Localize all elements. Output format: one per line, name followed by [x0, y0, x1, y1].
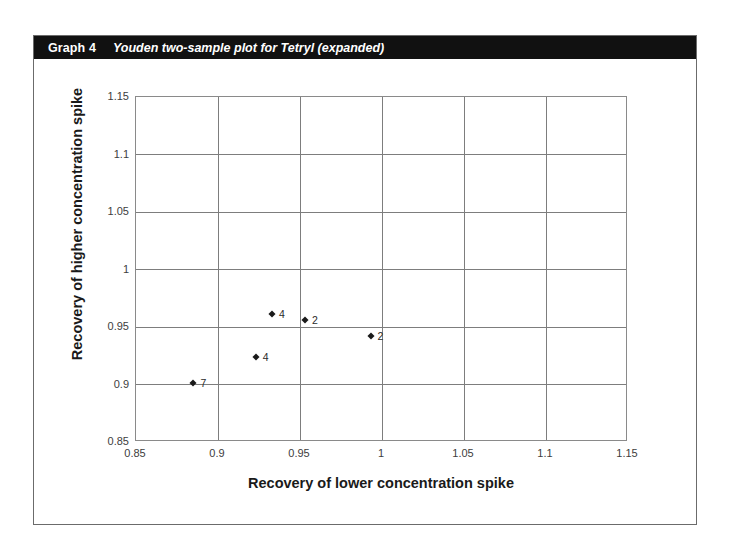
grid-line-horizontal: [136, 212, 626, 213]
data-point-label: 2: [378, 330, 384, 342]
y-axis-tick-label: 1.1: [114, 148, 129, 160]
data-point-label: 4: [263, 351, 269, 363]
y-axis-title-wrapper: Recovery of higher concentration spike: [67, 74, 87, 374]
x-axis-tick-label: 0.95: [288, 447, 309, 459]
data-point-label: 4: [279, 308, 285, 320]
grid-line-horizontal: [136, 327, 626, 328]
y-axis-tick-labels: 0.850.90.9511.051.11.15: [89, 96, 129, 441]
chart-region: 42247 0.850.90.9511.051.11.15 0.850.90.9…: [34, 59, 696, 524]
figure-title: Youden two-sample plot for Tetryl (expan…: [113, 41, 384, 55]
y-axis-tick-label: 1.05: [108, 205, 129, 217]
data-point-marker: [269, 311, 276, 318]
x-axis-tick-label: 0.85: [124, 447, 145, 459]
x-axis-title: Recovery of lower concentration spike: [135, 475, 627, 491]
figure-number: Graph 4: [48, 41, 96, 55]
y-axis-tick-label: 0.9: [114, 378, 129, 390]
grid-line-horizontal: [136, 269, 626, 270]
y-axis-tick-label: 1.15: [108, 90, 129, 102]
x-axis-tick-label: 0.9: [209, 447, 224, 459]
figure-frame: Graph 4 Youden two-sample plot for Tetry…: [33, 35, 697, 525]
data-point-label: 7: [200, 377, 206, 389]
x-axis-tick-label: 1.15: [616, 447, 637, 459]
data-point-marker: [301, 317, 308, 324]
y-axis-tick-label: 0.95: [108, 320, 129, 332]
grid-line-horizontal: [136, 384, 626, 385]
y-axis-title: Recovery of higher concentration spike: [69, 88, 85, 360]
data-point-marker: [367, 333, 374, 340]
plot-area: 42247: [135, 96, 627, 441]
data-point-marker: [252, 353, 259, 360]
data-point-marker: [190, 380, 197, 387]
x-axis-tick-label: 1.1: [537, 447, 552, 459]
data-point-label: 2: [312, 314, 318, 326]
x-axis-tick-label: 1.05: [452, 447, 473, 459]
grid-line-horizontal: [136, 154, 626, 155]
figure-caption-bar: Graph 4 Youden two-sample plot for Tetry…: [34, 36, 696, 59]
y-axis-tick-label: 1: [123, 263, 129, 275]
y-axis-tick-label: 0.85: [108, 435, 129, 447]
x-axis-tick-label: 1: [378, 447, 384, 459]
x-axis-tick-labels: 0.850.90.9511.051.11.15: [135, 447, 627, 465]
